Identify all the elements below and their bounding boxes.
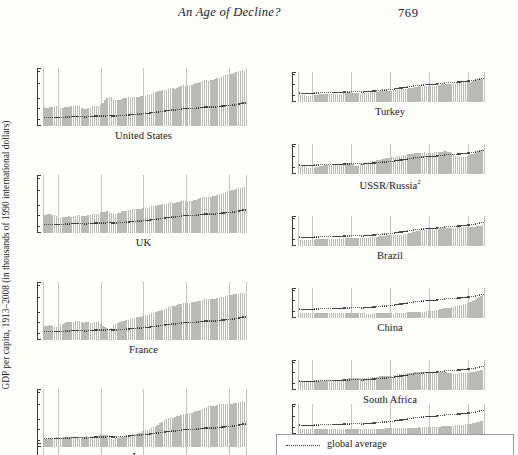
global-average-point [135,114,136,115]
chart-panel-france: 30201051France [37,282,250,366]
y-axis-line [37,282,38,340]
global-average-point [173,109,174,110]
global-average-point [452,298,453,299]
plot-area: 1051 [292,360,488,390]
y-tick-mark [37,312,40,313]
global-average-point [77,116,78,117]
y-tick-mark [37,190,40,191]
global-average-point [483,410,484,411]
running-head: An Age of Decline? 769 [0,4,518,24]
global-average-point [357,423,358,424]
global-average-point [390,305,391,306]
global-average-point [230,212,231,213]
global-average-point [84,437,85,438]
y-tick-mark [292,362,295,363]
y-tick-mark [37,404,40,405]
chart-panel-partial-4: 30 [37,443,250,455]
global-average-point [386,305,387,306]
gridline-1920 [58,443,59,455]
global-average-point [58,224,59,225]
axis-cap [292,288,296,289]
bar [482,79,483,102]
global-average-point [423,156,424,157]
global-average-point [173,323,174,324]
global-average-point [96,436,97,437]
global-average-point [116,115,117,116]
global-average-point [213,213,214,214]
global-average-point [328,236,329,237]
global-average-point [211,213,212,214]
page-title: An Age of Decline? [178,5,281,20]
global-average-point [171,323,172,324]
global-average-point [154,326,155,327]
bar [244,71,246,126]
global-average-point [44,438,45,439]
plot-area: 1051 [292,144,488,174]
global-average-point [392,305,393,306]
y-tick-mark [292,311,295,312]
global-average-point [213,106,214,107]
global-average-point [299,308,300,309]
gridline-2008 [246,68,247,126]
global-average-point [44,224,45,225]
axis-cap [37,232,41,233]
global-average-point [328,424,329,425]
global-average-point [423,300,424,301]
y-tick-mark [37,83,40,84]
gridline-2000 [229,443,230,455]
global-average-point [454,298,455,299]
global-average-point [359,91,360,92]
global-average-point [135,435,136,436]
plot-area: 1051 [292,72,488,102]
global-average-point [209,427,210,428]
axis-cap [37,389,41,390]
global-average-point [137,220,138,221]
y-tick-mark [292,146,295,147]
global-average-point [61,438,62,439]
plot-area: 30201051 [37,282,250,340]
gridline-1960 [143,443,144,455]
global-average-point [328,380,329,381]
global-average-point [101,115,102,116]
global-average-point [206,106,207,107]
global-average-point [154,112,155,113]
global-average-point [421,156,422,157]
global-average-point [101,222,102,223]
chart-panel-china: 1051China [292,288,488,344]
global-average-point [330,424,331,425]
global-average-point [355,235,356,236]
axis-cap [292,216,296,217]
global-average-point [454,414,455,415]
legend-label: global average [327,438,387,449]
global-average-point [245,209,246,210]
global-average-point [175,430,176,431]
y-tick-mark [37,285,40,286]
gridline-2008 [246,282,247,340]
global-average-point [132,328,133,329]
global-average-point [361,163,362,164]
global-average-point [392,89,393,90]
panel-caption: France [37,344,250,355]
y-axis-line [292,404,293,434]
global-average-point [330,164,331,165]
global-average-point [99,222,100,223]
global-average-point [209,320,210,321]
y-tick-mark [37,333,40,334]
axis-cap [37,339,41,340]
y-axis-caption: GDP per capita, 1913–2008 (in thousands … [0,56,14,454]
global-average-point [137,327,138,328]
global-average-point [137,113,138,114]
global-average-point [388,305,389,306]
global-average-point [386,89,387,90]
axis-cap [292,404,296,405]
global-average-point [175,323,176,324]
gridline-2008 [484,72,485,102]
y-axis-line [292,144,293,174]
global-average-point [450,414,451,415]
global-average-point [173,430,174,431]
global-average-point [44,117,45,118]
y-tick-mark [37,226,40,227]
global-average-point [330,236,331,237]
global-average-point [63,224,64,225]
global-average-point [168,110,169,111]
